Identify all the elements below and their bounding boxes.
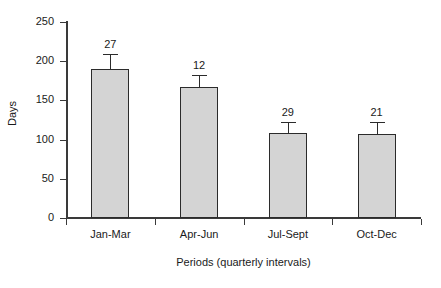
bar bbox=[358, 134, 396, 218]
plot-area: 27122921 bbox=[66, 22, 421, 218]
bar bbox=[269, 133, 307, 218]
error-bar-cap bbox=[281, 122, 296, 123]
x-axis-tick bbox=[244, 219, 245, 225]
y-axis-title: Days bbox=[7, 79, 18, 149]
x-axis-title: Periods (quarterly intervals) bbox=[66, 256, 421, 269]
y-axis-tick-label: 100 bbox=[14, 134, 54, 145]
y-axis-tick-label: 250 bbox=[14, 16, 54, 27]
error-bar-stem bbox=[110, 54, 111, 69]
bar-value-label: 21 bbox=[347, 107, 407, 118]
y-axis-tick-label: 150 bbox=[14, 94, 54, 105]
error-bar-cap bbox=[370, 122, 385, 123]
y-axis-tick-label: 0 bbox=[14, 212, 54, 223]
bar bbox=[91, 69, 129, 218]
bar-value-label: 27 bbox=[80, 39, 140, 50]
bar-value-label: 29 bbox=[258, 107, 318, 118]
bar-chart: 050100150200250 27122921 Jan-MarApr-JunJ… bbox=[0, 0, 441, 288]
x-axis-tick bbox=[66, 219, 67, 225]
error-bar-stem bbox=[377, 122, 378, 134]
x-axis-tick bbox=[332, 219, 333, 225]
x-axis-tick bbox=[155, 219, 156, 225]
error-bar-cap bbox=[103, 54, 118, 55]
bar-value-label: 12 bbox=[169, 60, 229, 71]
error-bar-stem bbox=[288, 122, 289, 132]
x-axis-tick bbox=[421, 219, 422, 225]
bar bbox=[180, 87, 218, 218]
error-bar-cap bbox=[192, 75, 207, 76]
y-axis-tick-label: 200 bbox=[14, 55, 54, 66]
x-axis-tick-label: Oct-Dec bbox=[322, 228, 432, 241]
y-axis-tick-label: 50 bbox=[14, 173, 54, 184]
error-bar-stem bbox=[199, 75, 200, 87]
